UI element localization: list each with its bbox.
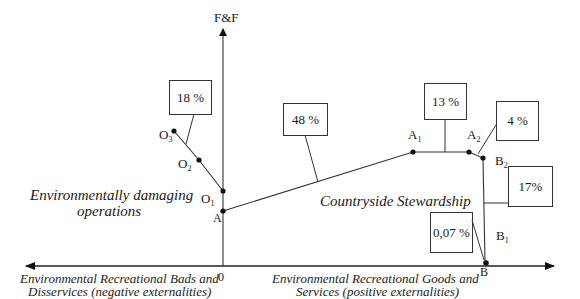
region-label-damaging-line2: operations <box>77 203 141 220</box>
point-label-o3: O3 <box>159 128 172 147</box>
callout-0-07-percent: 0,07 % <box>430 212 473 253</box>
y-axis-label: F&F <box>214 11 239 25</box>
point-label-a1: A1 <box>408 128 421 147</box>
callout-18-percent: 18 % <box>169 80 212 115</box>
callout-17-percent: 17% <box>508 166 553 207</box>
point-label-b2: B2 <box>495 154 508 173</box>
point-label-o1: O1 <box>201 192 214 211</box>
point-label-o2: O2 <box>178 157 191 176</box>
point-label-b1: B1 <box>496 229 509 248</box>
point-label-a2: A2 <box>467 128 480 147</box>
x-axis-right-label-line2: Services (positive externalities) <box>296 285 459 299</box>
point-label-b: B <box>480 265 488 284</box>
callout-48-percent: 48 % <box>283 103 328 136</box>
x-axis-left-label-line2: Disservices (negative externalities) <box>28 285 211 299</box>
region-label-damaging-line1: Environmentally damaging <box>30 187 193 204</box>
point-label-a: A <box>213 211 222 230</box>
callout-13-percent: 13 % <box>424 83 467 120</box>
callout-4-percent: 4 % <box>496 101 539 141</box>
region-label-stewardship: Countryside Stewardship <box>320 193 471 210</box>
